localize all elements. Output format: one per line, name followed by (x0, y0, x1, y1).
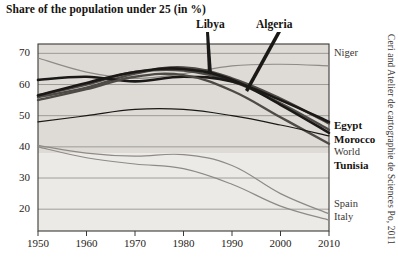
y-axis-tick-label: 60 (4, 78, 30, 90)
credit-text: Ceri and Atelier de cartographie de Scie… (386, 34, 396, 245)
series-label-italy: Italy (334, 211, 353, 222)
x-axis-tick-label: 1990 (212, 237, 252, 249)
chart-figure: Share of the population under 25 (in %) … (0, 0, 398, 265)
x-axis-tick-label: 1970 (115, 237, 155, 249)
x-axis-tick-label: 2000 (261, 237, 301, 249)
x-axis-tick-label: 1960 (67, 237, 107, 249)
x-axis-tick-label: 1950 (18, 237, 58, 249)
series-label-morocco: Morocco (334, 133, 375, 145)
y-axis-tick-label: 50 (4, 109, 30, 121)
series-label-egypt: Egypt (334, 119, 362, 131)
y-axis-tick-label: 40 (4, 140, 30, 152)
plot-background-upper (38, 44, 329, 153)
x-axis-tick-label: 2010 (309, 237, 349, 249)
y-axis-tick-label: 70 (4, 46, 30, 58)
series-label-niger: Niger (334, 47, 358, 58)
series-label-tunisia: Tunisia (334, 159, 368, 171)
x-axis-tick-label: 1980 (164, 237, 204, 249)
y-axis-tick-label: 30 (4, 171, 30, 183)
plot-background-lower (38, 153, 329, 231)
series-label-world: World (334, 146, 360, 157)
y-axis-tick-label: 20 (4, 202, 30, 214)
series-label-spain: Spain (334, 198, 358, 209)
